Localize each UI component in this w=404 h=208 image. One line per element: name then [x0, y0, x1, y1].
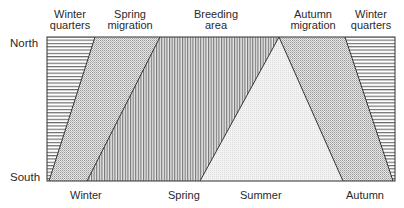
label-winter: Winter [70, 190, 102, 201]
label-summer: Summer [240, 190, 282, 201]
label-spring: Spring [168, 190, 200, 201]
label-autumn: Autumn [346, 190, 384, 201]
migration-diagram [0, 0, 404, 208]
